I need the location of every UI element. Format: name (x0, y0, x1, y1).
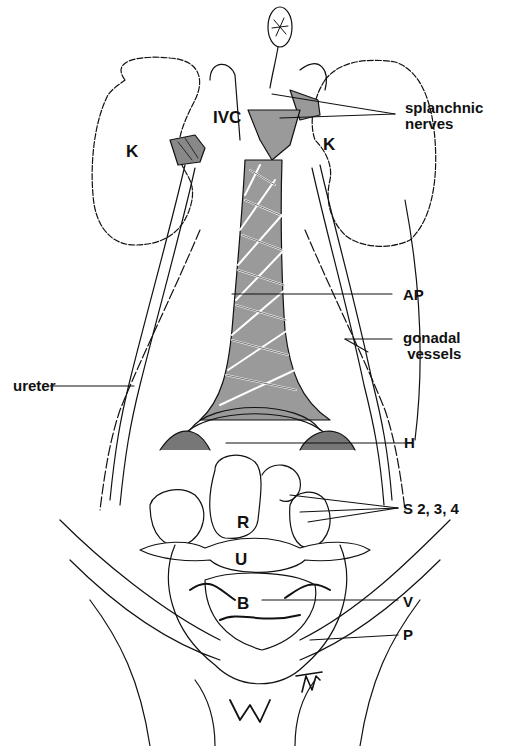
kidney-right (290, 60, 436, 246)
pelvic-organs (140, 455, 370, 683)
label-rectum: R (237, 515, 249, 531)
label-hypogastric: H (404, 435, 415, 451)
label-ureter: ureter (13, 378, 56, 394)
kidney-left (92, 57, 205, 245)
hypogastric-region (160, 408, 355, 451)
label-aortic-plexus: AP (403, 287, 424, 303)
label-pelvic-plexus: P (403, 627, 413, 643)
label-kidney-right: K (323, 137, 335, 153)
aortic-plexus (200, 110, 330, 420)
top-inset-ellipse (268, 7, 292, 88)
label-kidney-left: K (126, 144, 138, 160)
label-ivc: IVC (213, 110, 241, 126)
label-splanchnic-nerves: splanchnic nerves (405, 100, 483, 132)
label-bladder: B (237, 596, 249, 612)
label-sacral-nerves: S 2, 3, 4 (403, 501, 459, 517)
label-uterus: U (235, 552, 247, 568)
label-vagina: V (403, 594, 413, 610)
label-gonadal-vessels: gonadal vessels (403, 330, 461, 362)
